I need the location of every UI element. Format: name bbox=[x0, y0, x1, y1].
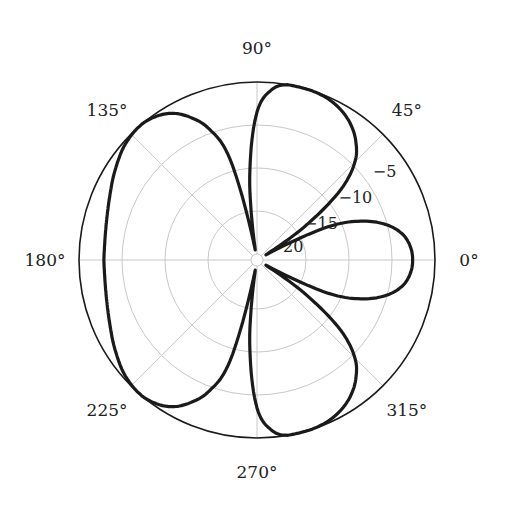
angle-label-180: 180° bbox=[25, 250, 66, 270]
radial-tick-labels: −5 −10 −15 20 bbox=[283, 162, 396, 256]
radial-label-minus20: 20 bbox=[283, 237, 303, 256]
polar-plot: 0° 45° 90° 135° 180° 225° 270° 315° −5 −… bbox=[0, 0, 510, 508]
grid-spoke bbox=[131, 264, 253, 386]
angle-label-135: 135° bbox=[87, 100, 128, 120]
radial-label-minus15: −15 bbox=[304, 214, 338, 233]
grid-ring bbox=[251, 254, 263, 266]
angle-label-0: 0° bbox=[459, 250, 478, 270]
grid-spoke bbox=[261, 264, 383, 386]
radial-label-minus5: −5 bbox=[373, 162, 397, 181]
angle-label-315: 315° bbox=[386, 400, 427, 420]
grid-spoke bbox=[131, 134, 253, 256]
angle-label-270: 270° bbox=[237, 462, 278, 482]
angle-label-90: 90° bbox=[242, 38, 272, 58]
radial-label-minus10: −10 bbox=[339, 188, 373, 207]
angle-label-45: 45° bbox=[392, 100, 422, 120]
angle-label-225: 225° bbox=[87, 400, 128, 420]
